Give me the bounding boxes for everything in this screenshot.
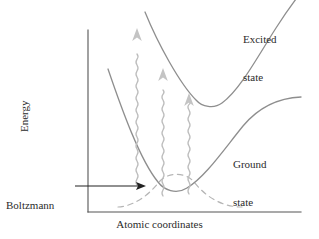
wavy-arrow-up-icon [162, 90, 164, 196]
boltzmann-label-line2: distribution [6, 237, 57, 239]
wavy-arrow-up-icon [136, 54, 138, 185]
x-axis-label: Atomic coordinates [0, 218, 319, 231]
energy-diagram-figure: Excited state Ground state Boltzmann dis… [0, 0, 319, 238]
transition-arrow-1 [132, 28, 142, 185]
arrow-head [132, 28, 142, 41]
ground-state-label-line2: state [233, 196, 267, 209]
arrow-head [158, 68, 168, 81]
transition-arrow-2 [158, 68, 168, 196]
ground-state-label-line1: Ground [233, 158, 267, 171]
excited-state-label-line2: state [243, 71, 277, 84]
y-axis-label: Energy [18, 76, 31, 156]
boltzmann-pointer [75, 182, 146, 190]
wavy-arrow-up-icon [188, 102, 190, 194]
excited-state-label-line1: Excited [243, 33, 277, 46]
boltzmann-label-line1: Boltzmann [6, 199, 57, 212]
transition-arrow-3 [184, 93, 194, 194]
excited-state-label: Excited state [243, 8, 277, 108]
